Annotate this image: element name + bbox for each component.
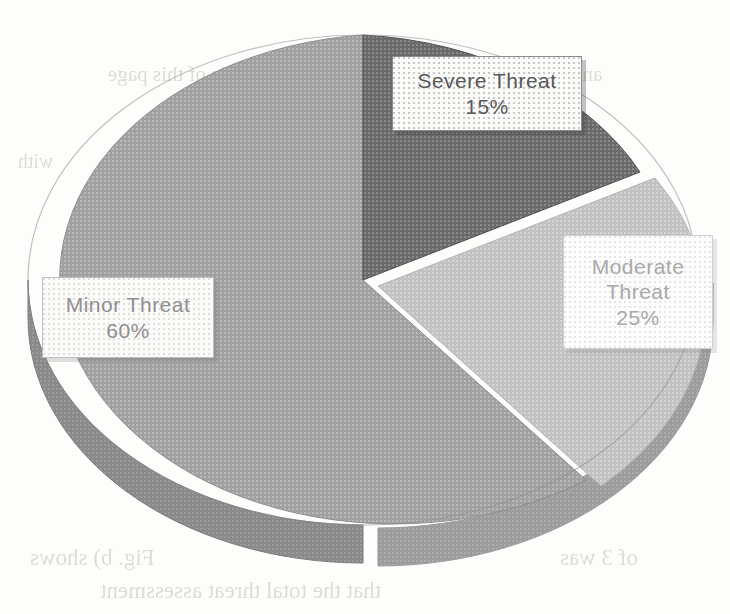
- pie-label-moderate-value: 25%: [616, 305, 660, 331]
- pie-label-minor-value: 60%: [106, 318, 150, 344]
- pie-label-moderate-name-line1: Moderate: [592, 254, 685, 280]
- pie-label-severe-value: 15%: [465, 94, 509, 120]
- pie-label-severe-threat[interactable]: Severe Threat 15%: [392, 56, 582, 131]
- pie-label-minor-name: Minor Threat: [66, 292, 191, 318]
- pie-label-minor-threat[interactable]: Minor Threat 60%: [42, 277, 214, 358]
- pie-label-moderate-name-line2: Threat: [606, 279, 670, 305]
- pie-label-severe-name: Severe Threat: [417, 68, 556, 94]
- scanned-page: the scan back side of this page and dist…: [0, 0, 730, 614]
- pie-label-moderate-threat[interactable]: Moderate Threat 25%: [563, 235, 713, 349]
